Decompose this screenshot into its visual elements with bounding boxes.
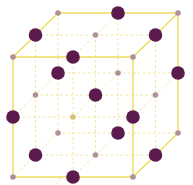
lattice-diagram bbox=[0, 0, 193, 185]
large-ion bbox=[149, 28, 163, 42]
large-ion bbox=[29, 28, 43, 42]
large-ion bbox=[149, 148, 163, 162]
crystal-lattice-svg bbox=[0, 0, 193, 185]
hidden-lattice-line bbox=[57, 178, 60, 184]
small-ion bbox=[93, 152, 99, 158]
large-ion bbox=[66, 170, 80, 184]
small-ion bbox=[70, 114, 76, 120]
small-ion bbox=[130, 54, 136, 60]
large-ion bbox=[111, 6, 125, 20]
small-ion bbox=[10, 54, 16, 60]
small-ion bbox=[93, 32, 99, 38]
large-ion bbox=[6, 110, 20, 124]
small-ion bbox=[10, 174, 16, 180]
large-ion bbox=[111, 126, 125, 140]
large-ion bbox=[66, 50, 80, 64]
small-ion bbox=[175, 130, 181, 136]
large-ion bbox=[126, 110, 140, 124]
small-ion bbox=[115, 70, 121, 76]
small-ion bbox=[33, 92, 39, 98]
large-ion bbox=[89, 88, 103, 102]
small-ion bbox=[55, 130, 61, 136]
small-ion bbox=[153, 92, 159, 98]
small-ion bbox=[55, 10, 61, 16]
large-ion bbox=[51, 66, 65, 80]
small-ion bbox=[175, 10, 181, 16]
small-ion bbox=[130, 174, 136, 180]
large-ion bbox=[29, 148, 43, 162]
large-ion bbox=[171, 66, 185, 80]
